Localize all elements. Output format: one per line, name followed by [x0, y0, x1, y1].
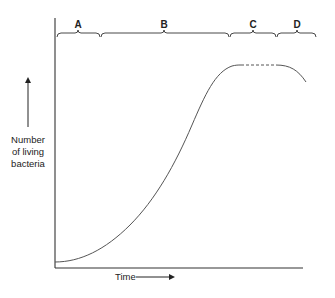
y-axis-label-line-2: of living [12, 146, 44, 157]
growth-curve-rising [55, 65, 241, 262]
brace-a [57, 30, 100, 37]
x-axis-label: Time [115, 271, 136, 282]
phase-label-c: C [249, 19, 256, 30]
phase-braces [57, 30, 316, 37]
y-axis-label-line-1: Number [11, 134, 45, 145]
growth-curve-declining [276, 65, 306, 82]
phase-label-b: B [160, 19, 167, 30]
brace-b [101, 30, 229, 37]
brace-c [230, 30, 276, 37]
phase-label-d: D [293, 19, 300, 30]
brace-d [277, 30, 316, 37]
phase-label-a: A [74, 19, 81, 30]
bacterial-growth-chart: A B C D Number of living bacteria Time [0, 0, 335, 298]
y-axis-label-line-3: bacteria [11, 158, 46, 169]
